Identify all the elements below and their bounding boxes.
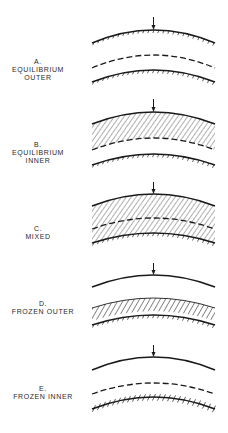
panel-e-dashed-front xyxy=(92,383,215,394)
panel-b-inner-surface-ticks xyxy=(93,154,215,168)
figure: A. EQUILIBRIUM OUTER B. EQUILIBRIUM INNE… xyxy=(0,0,228,433)
panel-a-outer-surface-ticks xyxy=(93,30,214,46)
panel-b-letter: B. xyxy=(8,141,68,149)
panel-b-label: B. EQUILIBRIUM INNER xyxy=(8,141,68,165)
panel-a-title-line-1: EQUILIBRIUM xyxy=(8,66,68,74)
panel-a-dashed-front xyxy=(92,55,215,68)
panel-e-title-line-1: FROZEN INNER xyxy=(3,393,83,401)
panel-e-label: E. FROZEN INNER xyxy=(3,385,83,401)
panel-a-letter: A. xyxy=(8,58,68,66)
panel-d-inner-surface-ticks xyxy=(93,315,215,328)
panel-b-arrow-head-icon xyxy=(152,107,156,112)
panel-a-inner-surface-ticks xyxy=(93,70,215,85)
panel-b-title-line-1: EQUILIBRIUM xyxy=(8,149,68,157)
panel-d-letter: D. xyxy=(3,300,83,308)
panel-d-outer-surface xyxy=(92,275,215,287)
panel-e-arrow-head-icon xyxy=(152,352,156,357)
panel-c-letter: C. xyxy=(8,225,68,233)
panel-c-arrow-head-icon xyxy=(152,189,156,194)
panel-e-letter: E. xyxy=(3,385,83,393)
panel-c-hatched-zone xyxy=(92,194,215,243)
panel-a-title-line-2: OUTER xyxy=(8,74,68,82)
panel-d-hatched-band xyxy=(92,298,215,321)
panel-c-label: C. MIXED xyxy=(8,225,68,241)
panel-a-label: A. EQUILIBRIUM OUTER xyxy=(8,58,68,82)
panel-b-title-line-2: INNER xyxy=(8,157,68,165)
panel-d-title-line-1: FROZEN OUTER xyxy=(3,308,83,316)
panel-d-label: D. FROZEN OUTER xyxy=(3,300,83,316)
panel-d-arrow-head-icon xyxy=(152,270,156,275)
panel-a-arrow-head-icon xyxy=(152,25,156,30)
panel-c-title-line-1: MIXED xyxy=(8,233,68,241)
panel-e-outer-surface xyxy=(92,357,215,370)
